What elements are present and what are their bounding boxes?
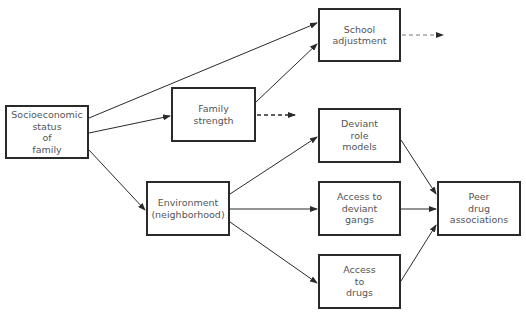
node-label-line: Peer — [469, 191, 490, 203]
arrow-drugs-to-peer — [401, 225, 436, 281]
node-label-line: Family — [198, 103, 229, 115]
node-label-line: gangs — [345, 214, 374, 226]
arrow-env-to-drugs — [230, 222, 317, 283]
node-access-deviant-gangs: Access to deviant gangs — [318, 181, 401, 236]
node-label-line: (neighborhood) — [151, 209, 224, 221]
node-school-adjustment: School adjustment — [318, 8, 401, 62]
node-label-line: Deviant — [341, 118, 378, 130]
arrow-family-to-school — [256, 44, 317, 102]
arrow-ses-to-environment — [89, 150, 145, 210]
node-peer-drug-associations: Peer drug associations — [437, 181, 521, 236]
node-family-strength: Family strength — [171, 87, 256, 142]
node-label-line: Environment — [158, 197, 219, 209]
node-label-line: of — [42, 132, 51, 144]
arrow-role-models-to-peer — [401, 140, 436, 194]
node-label-line: status — [32, 121, 61, 133]
node-label-line: drug — [468, 203, 490, 215]
arrow-ses-to-family — [89, 116, 170, 133]
arrow-env-to-role-models — [230, 137, 317, 194]
node-label-line: family — [32, 144, 61, 156]
node-deviant-role-models: Deviant role models — [318, 108, 401, 163]
node-label-line: models — [342, 141, 377, 153]
node-socioeconomic-status: Socioeconomic status of family — [5, 105, 89, 159]
node-access-drugs: Access to drugs — [318, 254, 401, 309]
node-label-line: deviant — [342, 203, 378, 215]
node-label-line: role — [351, 130, 369, 142]
node-label-line: adjustment — [332, 35, 386, 47]
node-label-line: Access — [343, 264, 376, 276]
node-label-line: Access to — [337, 191, 382, 203]
node-environment: Environment (neighborhood) — [146, 181, 230, 236]
node-label-line: drugs — [346, 287, 373, 299]
node-label-line: School — [344, 24, 376, 36]
node-label-line: strength — [193, 115, 233, 127]
node-label-line: Socioeconomic — [11, 109, 82, 121]
node-label-line: to — [355, 276, 365, 288]
node-label-line: associations — [450, 214, 508, 226]
